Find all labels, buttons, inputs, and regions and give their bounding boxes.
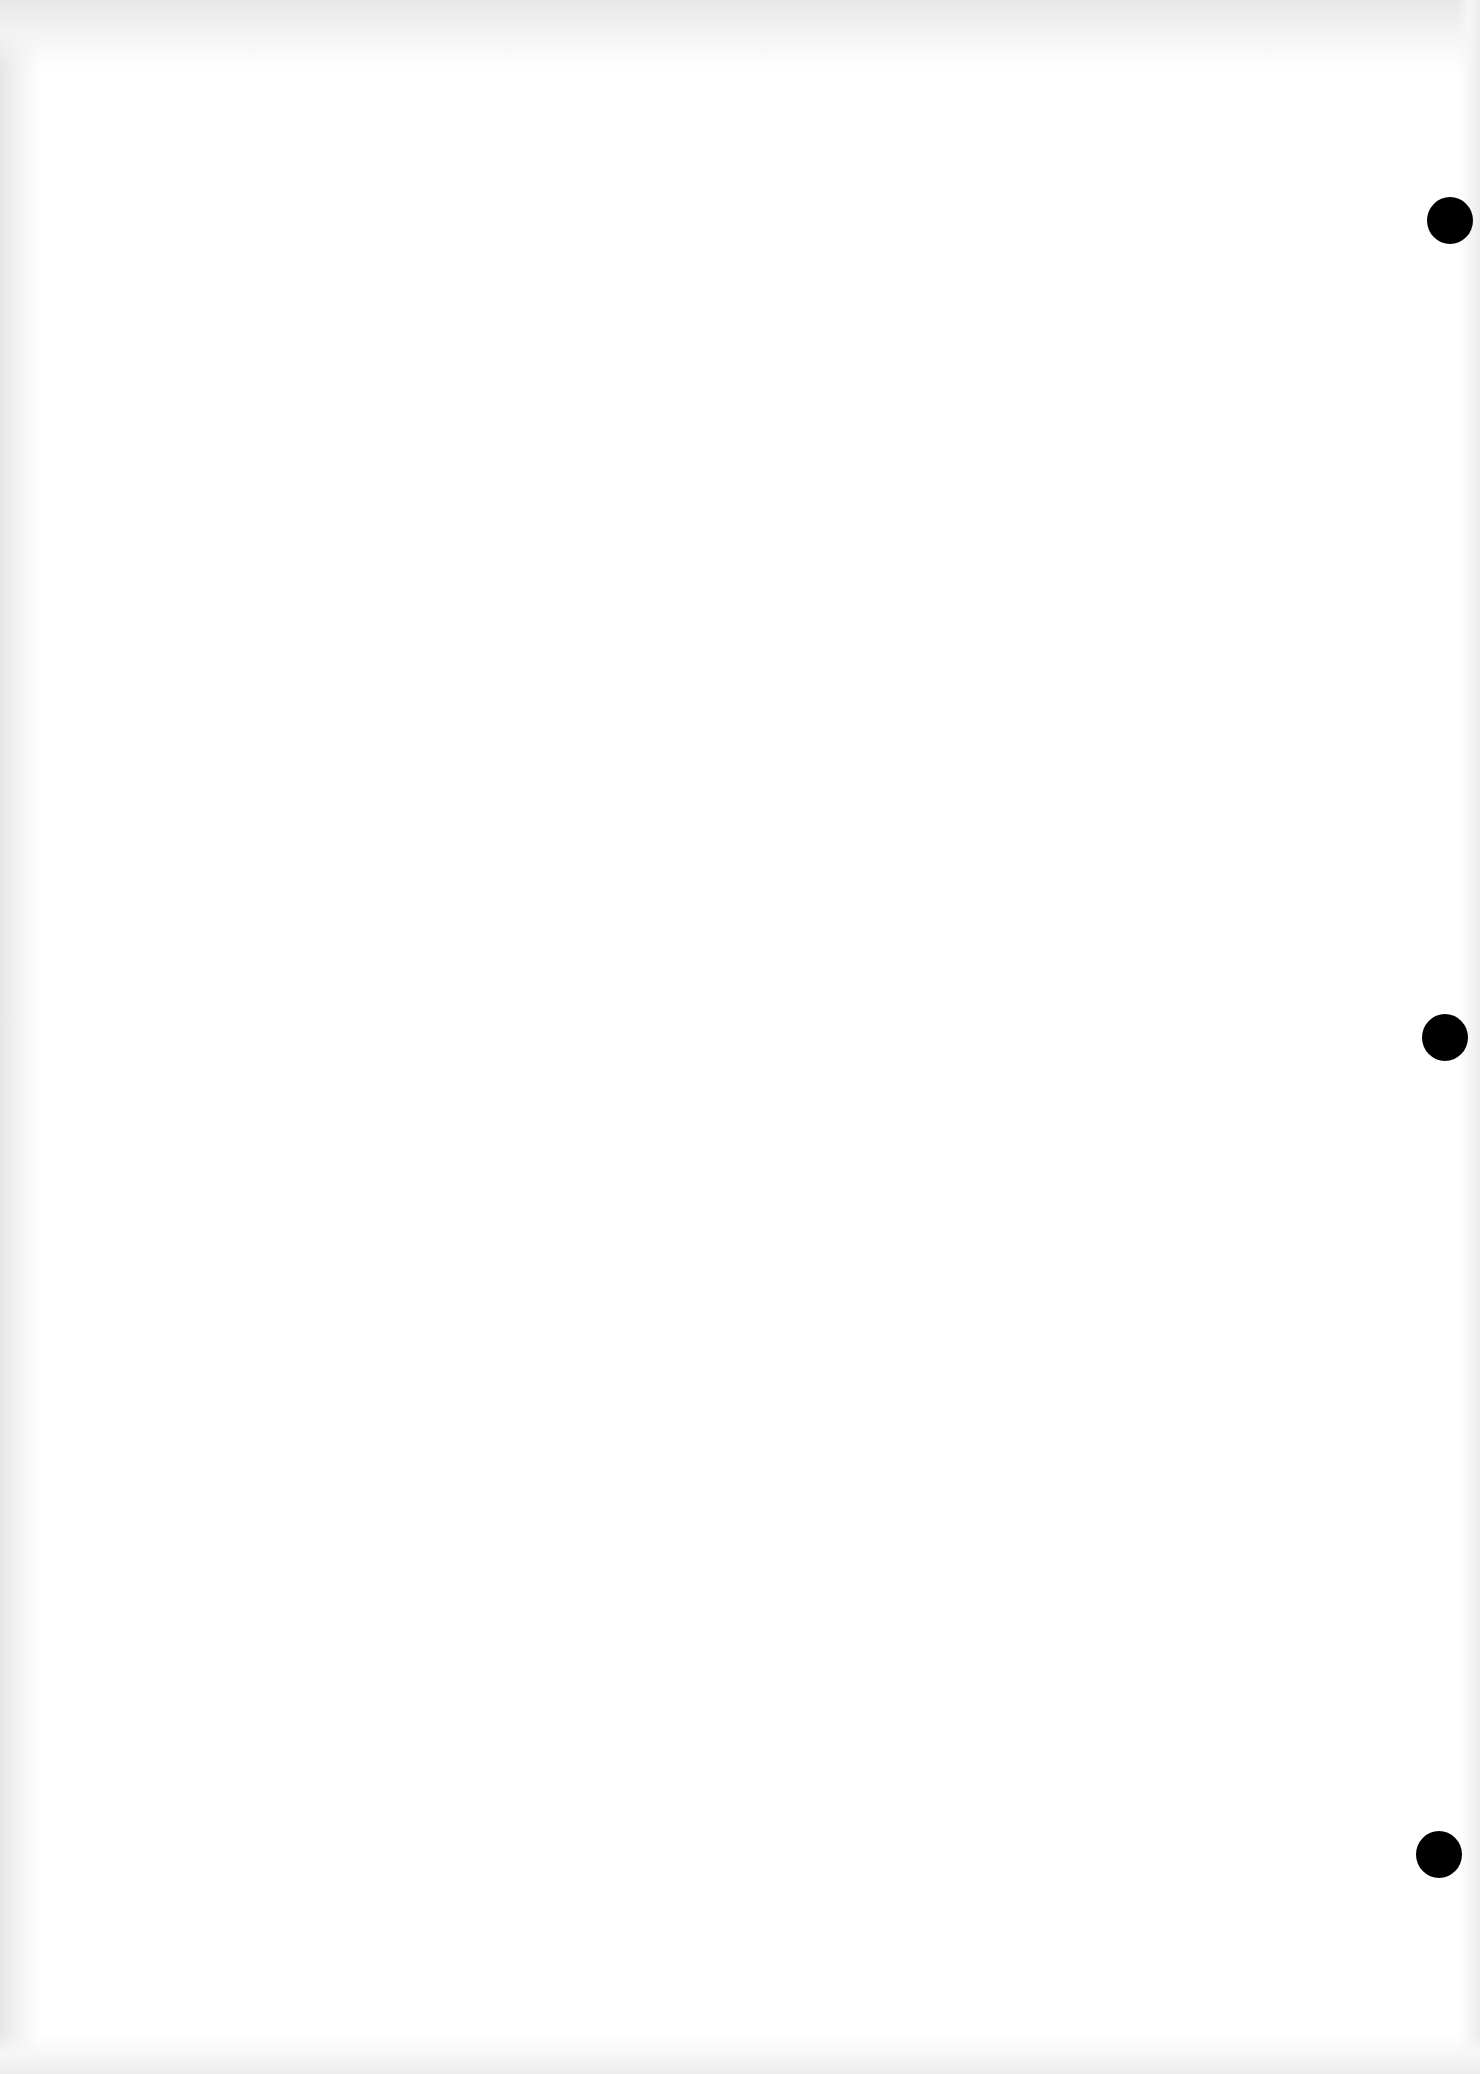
scan-edge-shadow-top xyxy=(0,0,1480,70)
punch-hole-icon xyxy=(1427,197,1473,244)
scan-edge-shadow-bottom xyxy=(0,2034,1480,2074)
scan-edge-shadow-left xyxy=(0,0,40,2074)
blank-scanned-page xyxy=(0,0,1480,2074)
punch-hole-icon xyxy=(1422,1014,1468,1061)
punch-hole-icon xyxy=(1416,1831,1462,1878)
